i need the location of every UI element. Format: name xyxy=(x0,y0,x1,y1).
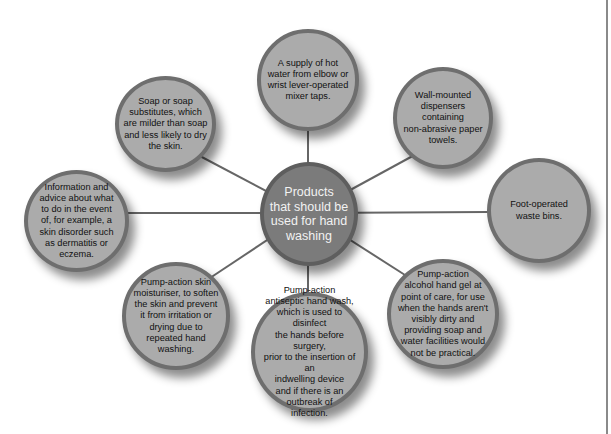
node-antiseptic-wash: Pump-action antiseptic hand wash, which … xyxy=(251,292,368,412)
node-label: Pump-action antiseptic hand wash, which … xyxy=(255,285,364,419)
node-label: Pump-action skin moisturiser, to soften … xyxy=(130,277,223,355)
node-label: Wall-mounted dispensers containing non-a… xyxy=(399,90,486,146)
node-label: Pump-action alcohol hand gel at point of… xyxy=(394,269,492,359)
node-moisturiser: Pump-action skin moisturiser, to soften … xyxy=(122,262,230,370)
node-hot-water: A supply of hot water from elbow or wris… xyxy=(257,29,359,131)
node-paper-towels: Wall-mounted dispensers containing non-a… xyxy=(393,67,493,169)
hand-washing-products-diagram: A supply of hot water from elbow or wris… xyxy=(0,0,611,434)
node-waste-bins: Foot-operated waste bins. xyxy=(487,158,591,263)
hub-node: Products that should be used for hand wa… xyxy=(260,162,358,266)
node-label: Information and advice about what to do … xyxy=(35,182,117,260)
right-border-rule xyxy=(606,0,608,434)
node-information: Information and advice about what to do … xyxy=(24,170,129,272)
hub-label: Products that should be used for hand wa… xyxy=(266,185,353,243)
node-label: Foot-operated waste bins. xyxy=(506,199,572,221)
node-label: A supply of hot water from elbow or wris… xyxy=(264,58,353,103)
node-alcohol-gel: Pump-action alcohol hand gel at point of… xyxy=(387,259,499,369)
node-label: Soap or soap substitutes, which are mild… xyxy=(120,96,212,152)
node-soap: Soap or soap substitutes, which are mild… xyxy=(115,76,216,172)
